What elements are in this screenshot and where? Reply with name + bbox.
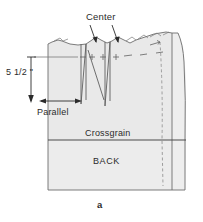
back-label: BACK (93, 157, 120, 166)
pattern-body-group (48, 32, 186, 190)
center-label: Center (86, 12, 116, 22)
parallel-label: Parallel (37, 108, 69, 117)
parallel-arrow-head-left (39, 98, 46, 103)
dimension-label: 5 1/2 " (6, 68, 33, 77)
vertical-dimension-group (27, 57, 36, 103)
figure-caption: a (97, 200, 102, 210)
dimension-arrow-head (28, 95, 34, 103)
pattern-diagram (0, 0, 203, 222)
crossgrain-label: Crossgrain (85, 129, 131, 138)
notch-detail-2 (63, 39, 68, 41)
figure-container: Center 5 1/2 " Parallel Crossgrain BACK … (0, 0, 203, 222)
